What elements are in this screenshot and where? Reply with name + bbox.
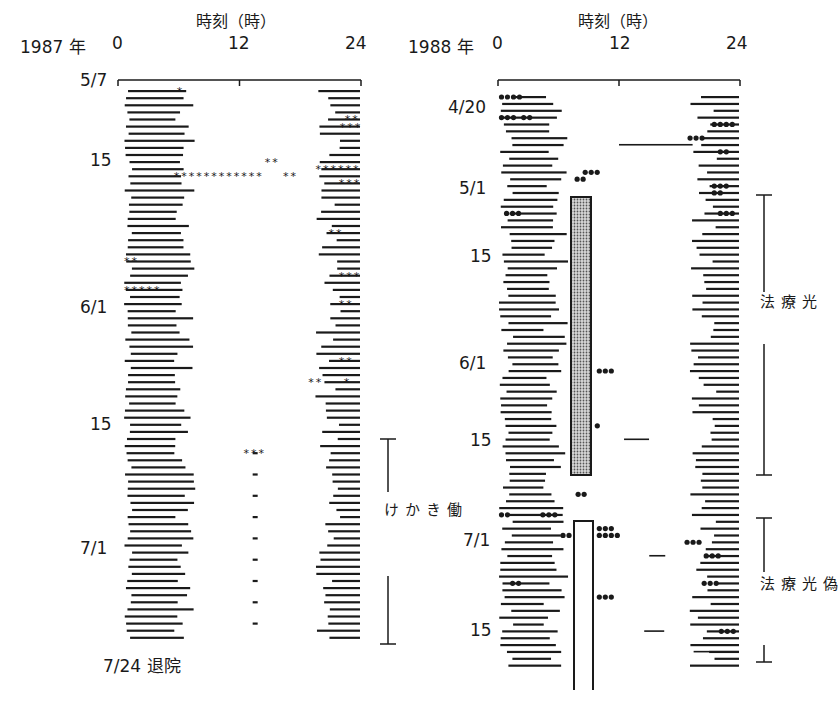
svg-text:*: * xyxy=(283,170,289,183)
svg-text:*: * xyxy=(346,298,352,311)
svg-text:*: * xyxy=(181,170,187,183)
svg-text:*: * xyxy=(339,177,345,190)
svg-text:*: * xyxy=(353,163,359,176)
svg-text:*: * xyxy=(308,376,314,389)
svg-text:*: * xyxy=(265,156,271,169)
svg-text:*: * xyxy=(226,170,232,183)
svg-text:*: * xyxy=(355,121,361,134)
svg-text:*: * xyxy=(132,255,138,268)
svg-text:*: * xyxy=(346,355,352,368)
svg-text:*: * xyxy=(259,447,265,460)
svg-text:*: * xyxy=(329,227,335,240)
svg-text:*: * xyxy=(272,156,278,169)
svg-text:*: * xyxy=(339,298,345,311)
svg-text:*: * xyxy=(244,447,250,460)
left-actogram-rows: ****************************************… xyxy=(124,85,361,639)
svg-text:*: * xyxy=(154,284,160,297)
svg-text:*: * xyxy=(219,170,225,183)
svg-text:*: * xyxy=(204,170,210,183)
svg-text:*: * xyxy=(241,170,247,183)
svg-text:*: * xyxy=(316,376,322,389)
svg-text:*: * xyxy=(189,170,195,183)
right-actogram-rows xyxy=(499,94,739,690)
svg-text:*: * xyxy=(249,170,255,183)
svg-text:*: * xyxy=(345,163,351,176)
svg-text:*: * xyxy=(124,255,130,268)
svg-text:*: * xyxy=(323,163,329,176)
svg-text:*: * xyxy=(346,270,352,283)
svg-text:*: * xyxy=(132,284,138,297)
svg-text:*: * xyxy=(256,170,262,183)
svg-text:*: * xyxy=(147,284,153,297)
svg-text:*: * xyxy=(139,284,145,297)
svg-text:*: * xyxy=(336,227,342,240)
svg-text:*: * xyxy=(330,163,336,176)
svg-text:*: * xyxy=(344,376,350,389)
svg-text:*: * xyxy=(338,163,344,176)
axes xyxy=(118,80,772,662)
svg-text:*: * xyxy=(174,170,180,183)
svg-text:*: * xyxy=(251,447,257,460)
svg-text:*: * xyxy=(347,121,353,134)
svg-text:*: * xyxy=(340,121,346,134)
svg-text:*: * xyxy=(234,170,240,183)
svg-text:*: * xyxy=(196,170,202,183)
svg-text:*: * xyxy=(211,170,217,183)
svg-text:*: * xyxy=(177,85,183,98)
svg-text:*: * xyxy=(339,355,345,368)
svg-text:*: * xyxy=(315,163,321,176)
svg-text:*: * xyxy=(346,177,352,190)
svg-text:*: * xyxy=(124,284,130,297)
svg-text:*: * xyxy=(354,177,360,190)
svg-text:*: * xyxy=(291,170,297,183)
svg-text:*: * xyxy=(354,270,360,283)
svg-text:*: * xyxy=(339,270,345,283)
